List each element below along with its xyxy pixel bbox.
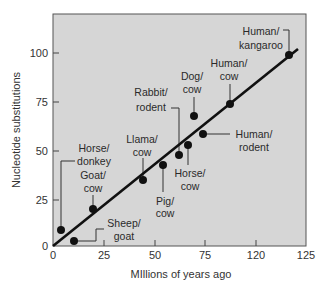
x-axis-title: MIllions of years ago bbox=[131, 268, 232, 280]
y-axis-title: Nucleotide substitutions bbox=[10, 71, 22, 188]
label-human-rodent-1: Human/ bbox=[236, 128, 273, 140]
y-tick-label: 100 bbox=[30, 47, 48, 59]
y-tick-label: 75 bbox=[36, 96, 48, 108]
point-pig-cow bbox=[159, 161, 167, 169]
point-human-rodent bbox=[199, 130, 207, 138]
label-horse-donkey-1: Horse/ bbox=[79, 142, 110, 154]
y-axis: 0 25 50 75 100 Nucleotide substitutions bbox=[10, 47, 59, 252]
label-pig-cow-2: cow bbox=[156, 207, 175, 219]
point-rabbit-rodent bbox=[175, 151, 183, 159]
label-human-cow-2: cow bbox=[220, 70, 239, 82]
label-dog-cow-1: Dog/ bbox=[181, 70, 203, 82]
x-tick-label: 125 bbox=[297, 249, 315, 261]
x-tick-label: 120 bbox=[247, 249, 265, 261]
x-tick-label: 50 bbox=[149, 249, 161, 261]
label-horse-cow-1: Horse/ bbox=[175, 167, 206, 179]
label-llama-cow-1: Llama/ bbox=[126, 133, 158, 145]
y-tick-label: 50 bbox=[36, 145, 48, 157]
x-tick-label: 0 bbox=[50, 249, 56, 261]
label-sheep-goat-1: Sheep/ bbox=[107, 217, 140, 229]
point-human-cow bbox=[226, 100, 234, 108]
label-rabbit-rodent-2: rodent bbox=[136, 101, 166, 113]
point-goat-cow bbox=[89, 205, 97, 213]
y-tick-label: 0 bbox=[42, 240, 48, 252]
label-goat-cow-1: Goat/ bbox=[80, 169, 106, 181]
label-human-kangaroo-1: Human/ bbox=[243, 25, 280, 37]
point-horse-cow bbox=[184, 141, 192, 149]
label-goat-cow-2: cow bbox=[84, 182, 103, 194]
x-tick-label: 25 bbox=[98, 249, 110, 261]
label-horse-donkey-2: donkey bbox=[77, 155, 112, 167]
x-tick-label: 75 bbox=[199, 249, 211, 261]
chart-svg: 0 25 50 75 120 125 MIllions of years ago… bbox=[0, 0, 326, 289]
label-human-rodent-2: rodent bbox=[239, 141, 269, 153]
label-dog-cow-2: cow bbox=[183, 83, 202, 95]
point-horse-donkey bbox=[57, 226, 65, 234]
point-llama-cow bbox=[139, 176, 147, 184]
label-rabbit-rodent-1: Rabbit/ bbox=[134, 86, 167, 98]
label-llama-cow-2: cow bbox=[133, 146, 152, 158]
label-human-kangaroo-2: kangaroo bbox=[239, 39, 283, 51]
chart: 0 25 50 75 120 125 MIllions of years ago… bbox=[0, 0, 326, 289]
point-dog-cow bbox=[190, 112, 198, 120]
label-pig-cow-1: Pig/ bbox=[156, 195, 174, 207]
label-sheep-goat-2: goat bbox=[114, 230, 135, 242]
label-horse-cow-2: cow bbox=[181, 180, 200, 192]
y-tick-label: 25 bbox=[36, 194, 48, 206]
point-sheep-goat bbox=[70, 237, 78, 245]
point-human-kangaroo bbox=[285, 51, 293, 59]
label-human-cow-1: Human/ bbox=[211, 57, 248, 69]
